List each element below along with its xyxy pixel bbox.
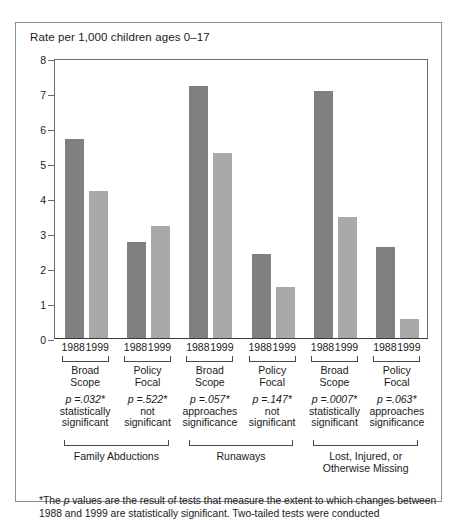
footnote: *The p values are the result of tests th… xyxy=(39,494,437,520)
y-axis-tick-6: 6 xyxy=(21,124,55,136)
y-axis-tick-5: 5 xyxy=(21,159,55,171)
bar-1988-group-0 xyxy=(65,139,84,339)
bar-1999-group-2 xyxy=(213,153,232,339)
subgroup-label-line2: Focal xyxy=(133,377,161,389)
p-note-line2: significant xyxy=(124,417,171,429)
p-note-line2: significant xyxy=(249,417,296,429)
x-axis-year-label: 1999 xyxy=(210,341,233,353)
bar-1999-group-0 xyxy=(89,191,108,338)
y-axis-tick-8: 8 xyxy=(21,54,55,66)
subgroup-label-line2: Focal xyxy=(383,377,411,389)
y-axis-tick-4: 4 xyxy=(21,194,55,206)
p-value-block: p =.147*notsignificant xyxy=(249,394,296,429)
x-axis-year-label: 1999 xyxy=(397,341,420,353)
subgroup-label-line2: Focal xyxy=(258,377,286,389)
subgroup-label-line2: Scope xyxy=(70,377,100,389)
subgroup-label-line1: Policy xyxy=(133,365,161,377)
subgroup-label: BroadScope xyxy=(70,365,100,388)
x-axis-year-label: 1988 xyxy=(373,341,396,353)
category-bracket xyxy=(189,440,294,446)
y-axis-tick-3: 3 xyxy=(21,229,55,241)
subgroup-label-line2: Scope xyxy=(320,377,350,389)
footnote-text-1: The xyxy=(43,495,64,506)
category-bracket xyxy=(64,440,169,446)
p-value-block: p =.063*approachessignificance xyxy=(369,394,424,429)
subgroup-label-line1: Policy xyxy=(383,365,411,377)
x-axis-year-label: 1999 xyxy=(272,341,295,353)
subgroup-label: PolicyFocal xyxy=(133,365,161,388)
p-value: p =.057* xyxy=(182,394,237,406)
chart-title: Rate per 1,000 children ages 0–17 xyxy=(30,31,210,43)
p-value-block: p =.057*approachessignificance xyxy=(182,394,237,429)
subgroup-label-line2: Scope xyxy=(195,377,225,389)
bar-1999-group-5 xyxy=(400,319,419,338)
x-axis-year-label: 1999 xyxy=(148,341,171,353)
subgroup-label-line1: Policy xyxy=(258,365,286,377)
footnote-text-2: values are the result of tests that meas… xyxy=(39,495,436,519)
category-label-line1: Family Abductions xyxy=(74,450,159,462)
p-value: p =.522* xyxy=(124,394,171,406)
x-axis-year-label: 1999 xyxy=(335,341,358,353)
bar-1999-group-1 xyxy=(151,226,170,338)
p-value: p =.032* xyxy=(60,394,111,406)
category-label: Family Abductions xyxy=(74,450,159,462)
category-bracket xyxy=(313,440,418,446)
p-value: p =.063* xyxy=(369,394,424,406)
subgroup-bracket xyxy=(249,356,296,362)
p-note-line2: significance xyxy=(182,417,237,429)
x-axis-year-label: 1988 xyxy=(186,341,209,353)
bar-1988-group-1 xyxy=(127,242,146,338)
x-axis-year-label: 1988 xyxy=(311,341,334,353)
bar-1988-group-4 xyxy=(314,91,333,338)
p-value-block: p =.032*statisticallysignificant xyxy=(60,394,111,429)
p-note-line2: significant xyxy=(309,417,360,429)
x-axis-year-label: 1988 xyxy=(124,341,147,353)
bar-1988-group-3 xyxy=(252,254,271,338)
category-label: Runaways xyxy=(216,450,265,462)
category-label-line1: Lost, Injured, or xyxy=(323,450,409,462)
p-value-block: p =.522*notsignificant xyxy=(124,394,171,429)
y-axis-tick-0: 0 xyxy=(21,334,55,346)
subgroup-bracket xyxy=(186,356,233,362)
bar-1988-group-2 xyxy=(189,86,208,338)
x-axis-year-label: 1999 xyxy=(85,341,108,353)
x-axis-year-label: 1988 xyxy=(61,341,84,353)
p-note-line2: significant xyxy=(60,417,111,429)
bar-1999-group-3 xyxy=(276,287,295,338)
category-label: Lost, Injured, orOtherwise Missing xyxy=(323,450,409,474)
p-note-line2: significance xyxy=(369,417,424,429)
p-value: p =.147* xyxy=(249,394,296,406)
subgroup-label: BroadScope xyxy=(320,365,350,388)
subgroup-label: BroadScope xyxy=(195,365,225,388)
category-label-line2: Otherwise Missing xyxy=(323,462,409,474)
figure-panel: Rate per 1,000 children ages 0–17 012345… xyxy=(15,22,442,502)
subgroup-bracket xyxy=(124,356,171,362)
subgroup-bracket xyxy=(311,356,358,362)
subgroup-bracket xyxy=(62,356,109,362)
plot-area: 012345678 xyxy=(54,59,428,339)
subgroup-label-line1: Broad xyxy=(195,365,225,377)
y-axis-tick-7: 7 xyxy=(21,89,55,101)
bar-1988-group-5 xyxy=(376,247,395,338)
subgroup-label-line1: Broad xyxy=(70,365,100,377)
subgroup-label-line1: Broad xyxy=(320,365,350,377)
bar-1999-group-4 xyxy=(338,217,357,338)
p-value: p =.0007* xyxy=(309,394,360,406)
subgroup-label: PolicyFocal xyxy=(258,365,286,388)
x-axis-year-label: 1988 xyxy=(248,341,271,353)
p-value-block: p =.0007*statisticallysignificant xyxy=(309,394,360,429)
x-axis-label-band: 19881999BroadScopep =.032*statisticallys… xyxy=(54,341,428,491)
subgroup-label: PolicyFocal xyxy=(383,365,411,388)
y-axis-tick-2: 2 xyxy=(21,264,55,276)
subgroup-bracket xyxy=(373,356,420,362)
category-label-line1: Runaways xyxy=(216,450,265,462)
y-axis-tick-1: 1 xyxy=(21,299,55,311)
